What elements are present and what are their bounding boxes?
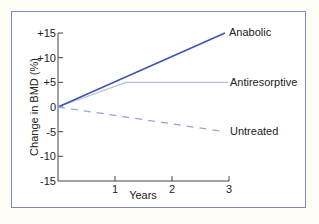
y-tick-label: 0 [50, 101, 56, 113]
label-antiresorptive: Antiresorptive [230, 76, 297, 88]
y-tick-label: -5 [46, 126, 56, 138]
y-tick-label: +5 [43, 76, 56, 88]
y-axis-label: Change in BMD (%) [28, 58, 40, 156]
bmd-line-chart: +15 +10 +5 0 -5 -10 -15 1 2 3 Years Chan… [0, 0, 319, 224]
x-ticks [115, 176, 229, 181]
x-axis-label: Years [129, 189, 157, 201]
x-tick-label: 2 [169, 183, 175, 195]
x-tick-label: 3 [226, 183, 232, 195]
y-ticks [58, 33, 63, 156]
label-anabolic: Anabolic [229, 26, 272, 38]
series-untreated [58, 107, 225, 132]
y-tick-label: -10 [40, 150, 56, 162]
label-untreated: Untreated [230, 125, 278, 137]
x-tick-label: 1 [112, 183, 118, 195]
series-antiresorptive [58, 82, 228, 107]
y-tick-label: -15 [40, 175, 56, 187]
y-tick-label: +15 [37, 27, 56, 39]
y-tick-label: +10 [37, 52, 56, 64]
series-anabolic [58, 33, 225, 107]
y-tick-labels: +15 +10 +5 0 -5 -10 -15 [37, 27, 56, 187]
